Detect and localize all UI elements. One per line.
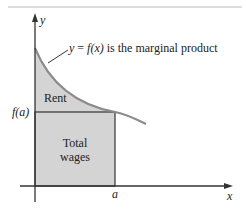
y-tick-fa: f(a) — [12, 105, 29, 119]
curve-label-rest: is the marginal product — [104, 41, 218, 55]
curve-label: y = f(x) is the marginal product — [68, 41, 218, 55]
rent-label: Rent — [44, 91, 67, 105]
marginal-product-diagram: y x a f(a) y = f(x) is the marginal prod… — [0, 0, 246, 213]
y-axis-label: y — [39, 13, 46, 27]
x-tick-a: a — [112, 187, 118, 201]
wages-label-line2: wages — [60, 150, 90, 164]
curve-label-eq: = — [74, 41, 87, 55]
curve-label-arg: (x) — [90, 41, 103, 55]
label-leader-line — [48, 50, 68, 63]
y-axis-arrow-icon — [32, 13, 38, 22]
x-axis-label: x — [226, 189, 233, 203]
wages-label-line1: Total — [63, 136, 88, 150]
